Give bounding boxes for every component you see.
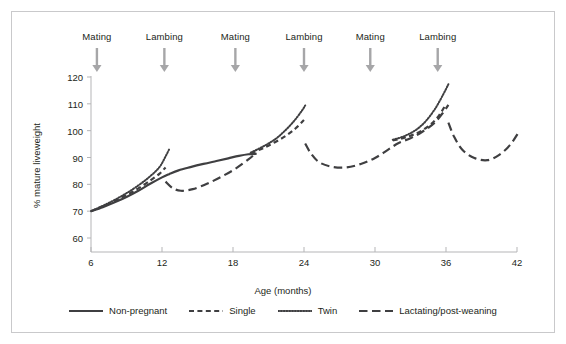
y-tick-label-60: 60 bbox=[49, 233, 83, 244]
legend-item-non-pregnant[interactable]: Non-pregnant bbox=[69, 305, 167, 316]
chart-legend: Non-pregnantSingleTwinLactating/post-wea… bbox=[30, 305, 536, 316]
x-axis-title: Age (months) bbox=[0, 285, 566, 296]
x-tick-label-42: 42 bbox=[512, 257, 523, 268]
legend-item-lactating-post-weaning[interactable]: Lactating/post-weaning bbox=[359, 305, 497, 316]
y-tick-label-110: 110 bbox=[49, 98, 83, 109]
legend-swatch-dashed-icon bbox=[189, 306, 223, 316]
annotation-label-mating-4: Mating bbox=[356, 31, 385, 42]
legend-label: Single bbox=[229, 305, 255, 316]
legend-item-single[interactable]: Single bbox=[189, 305, 255, 316]
chart-figure: MatingLambingMatingLambingMatingLambing … bbox=[0, 0, 566, 344]
x-tick-label-36: 36 bbox=[441, 257, 452, 268]
x-tick-label-30: 30 bbox=[370, 257, 381, 268]
y-tick-label-70: 70 bbox=[49, 206, 83, 217]
annotation-label-lambing-3: Lambing bbox=[285, 31, 322, 42]
annotation-label-mating-0: Mating bbox=[82, 31, 111, 42]
series-single bbox=[91, 104, 446, 211]
series-twin bbox=[91, 84, 448, 211]
y-tick-label-100: 100 bbox=[49, 125, 83, 136]
annotation-label-mating-2: Mating bbox=[221, 31, 250, 42]
y-axis-title: % mature liveweight bbox=[31, 106, 42, 226]
legend-label: Lactating/post-weaning bbox=[399, 305, 497, 316]
annotation-label-lambing-1: Lambing bbox=[146, 31, 183, 42]
legend-label: Twin bbox=[318, 305, 338, 316]
y-tick-label-80: 80 bbox=[49, 179, 83, 190]
series-non-pregnant bbox=[91, 154, 257, 211]
x-tick-label-18: 18 bbox=[228, 257, 239, 268]
legend-swatch-dotted-icon bbox=[278, 306, 312, 316]
y-tick-label-120: 120 bbox=[49, 72, 83, 83]
series-lactating-post-weaning bbox=[166, 105, 520, 191]
x-tick-label-24: 24 bbox=[299, 257, 310, 268]
y-tick-label-90: 90 bbox=[49, 152, 83, 163]
annotation-label-lambing-5: Lambing bbox=[419, 31, 456, 42]
annotation-arrows bbox=[92, 48, 442, 72]
legend-swatch-solid-icon bbox=[69, 306, 103, 316]
x-tick-label-6: 6 bbox=[88, 257, 93, 268]
x-tick-label-12: 12 bbox=[157, 257, 168, 268]
legend-swatch-long-dash-icon bbox=[359, 306, 393, 316]
chart-axes bbox=[87, 76, 517, 252]
legend-item-twin[interactable]: Twin bbox=[278, 305, 338, 316]
legend-label: Non-pregnant bbox=[109, 305, 167, 316]
